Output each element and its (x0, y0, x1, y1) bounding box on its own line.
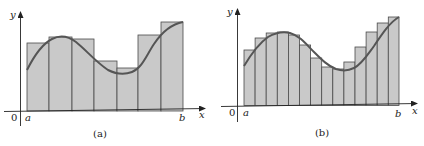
rect-a-7 (161, 22, 183, 111)
b-label-b: b (395, 108, 401, 119)
caption-a: (a) (93, 128, 107, 139)
origin-label-b: 0 (229, 107, 235, 118)
rect-a-6 (138, 35, 161, 111)
figure-a: y x 0 a b (a) (4, 9, 205, 139)
a-label-b: a (243, 107, 249, 118)
rect-b-6 (300, 45, 311, 106)
rectangles-b (244, 17, 399, 106)
rect-b-5 (288, 35, 299, 106)
x-axis-label-a: x (199, 109, 205, 120)
rect-a-2 (49, 37, 72, 111)
rect-b-7 (311, 58, 322, 106)
a-label-a: a (25, 112, 31, 123)
rect-b-13 (377, 23, 388, 106)
rect-b-11 (355, 47, 366, 106)
rect-b-9 (333, 69, 344, 106)
origin-label-a: 0 (11, 112, 17, 123)
b-label-a: b (179, 112, 185, 123)
rect-b-8 (322, 67, 333, 106)
rect-b-14 (388, 17, 399, 106)
rect-a-3 (72, 39, 94, 111)
rect-b-4 (277, 32, 288, 106)
caption-b: (b) (315, 127, 329, 138)
rect-b-3 (266, 33, 277, 106)
y-axis-label-a: y (9, 9, 16, 20)
riemann-sum-figure: y x 0 a b (a) y x 0 a b (0, 0, 424, 146)
y-axis-label-b: y (226, 6, 233, 17)
x-axis-label-b: x (412, 105, 418, 116)
figure-b: y x 0 a b (b) (221, 6, 418, 138)
